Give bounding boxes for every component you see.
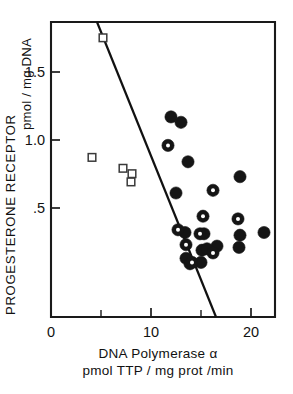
data-point-dotted-circle xyxy=(207,247,219,259)
data-point-dotted-circle xyxy=(232,213,244,225)
data-point-filled-circle xyxy=(233,241,245,253)
data-point-dotted-circle xyxy=(186,256,198,268)
y-axis-title-inner: pmol / mg DNA xyxy=(19,38,34,130)
x-tick-label-0: 0 xyxy=(47,324,55,340)
y-axis-title-outer: PROGESTERONE RECEPTOR xyxy=(3,114,18,315)
data-point-dotted-circle xyxy=(197,210,209,222)
data-point-dotted-circle xyxy=(180,239,192,251)
data-point-open-square xyxy=(99,34,107,42)
plot-frame xyxy=(51,22,275,317)
data-point-filled-circle xyxy=(175,116,187,128)
regression-line xyxy=(97,22,216,317)
x-axis-ticks xyxy=(51,308,251,317)
scatter-plot-figure: 1.5 1.0 .5 0 10 20 DNA Polymerase α pmol… xyxy=(0,0,293,394)
data-point-filled-circle xyxy=(234,171,246,183)
y-tick-label-1-0: 1.0 xyxy=(25,132,45,148)
data-point-open-square xyxy=(128,170,136,178)
data-point-dotted-circle xyxy=(194,228,206,240)
data-point-open-square xyxy=(119,165,127,173)
x-tick-label-20: 20 xyxy=(243,324,259,340)
data-point-dotted-circle xyxy=(162,139,174,151)
data-point-open-square xyxy=(127,178,135,186)
x-tick-label-10: 10 xyxy=(143,324,159,340)
y-tick-label-0-5: .5 xyxy=(33,200,45,216)
x-axis-title-line1: DNA Polymerase α xyxy=(98,346,217,361)
data-point-dotted-circle xyxy=(207,184,219,196)
y-axis-ticks xyxy=(51,72,60,208)
data-point-dotted-circle xyxy=(172,224,184,236)
data-point-filled-circle xyxy=(170,187,182,199)
data-point-filled-circle xyxy=(182,156,194,168)
data-point-filled-circle xyxy=(258,226,270,238)
x-axis-title-line2: pmol TTP / mg prot /min xyxy=(82,363,233,378)
data-point-open-square xyxy=(88,154,96,162)
data-point-filled-circle xyxy=(234,229,246,241)
